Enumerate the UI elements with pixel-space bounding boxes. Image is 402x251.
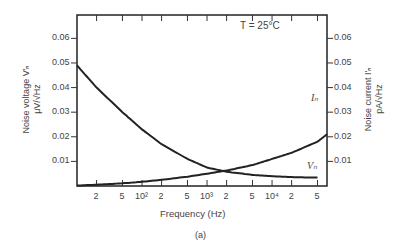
- y-axis-left-label: Noise voltage V'ₙ μV/√Hz: [21, 49, 43, 149]
- x-tick-label: 2: [94, 191, 99, 201]
- y-tick-label-left: 0.02: [52, 131, 70, 141]
- y-tick-label-left: 0.03: [52, 106, 70, 116]
- vn-curve: [77, 65, 318, 177]
- y-tick-label-right: 0.06: [334, 32, 352, 42]
- y-tick-label-right: 0.03: [334, 106, 352, 116]
- x-axis-label: Frequency (Hz): [160, 208, 225, 219]
- plot-frame: [77, 15, 327, 186]
- x-tick-label: 5: [119, 191, 124, 201]
- y-tick-label-left: 0.05: [52, 57, 70, 67]
- x-tick-label: 2: [289, 191, 294, 201]
- y-tick-label-right: 0.05: [334, 57, 352, 67]
- y-tick-label-right: 0.04: [334, 82, 352, 92]
- x-tick-label: 10³: [200, 191, 213, 201]
- figure-caption: (a): [195, 230, 206, 240]
- x-tick-label: 2: [159, 191, 164, 201]
- y-tick-label-right: 0.02: [334, 131, 352, 141]
- vn-series-label: Vₙ: [307, 160, 317, 171]
- y-tick-label-left: 0.01: [52, 155, 70, 165]
- x-tick-label: 5: [314, 191, 319, 201]
- x-tick-label: 10²: [135, 191, 148, 201]
- x-tick-label: 2: [224, 191, 229, 201]
- in-series-label: Iₙ: [311, 92, 318, 103]
- x-tick-label: 5: [184, 191, 189, 201]
- temperature-annotation: T = 25°C: [240, 20, 280, 31]
- y-tick-label-left: 0.04: [52, 82, 70, 92]
- y-axis-right-label: Noise current I'ₙ pA/√Hz: [363, 49, 385, 149]
- y-tick-label-left: 0.06: [52, 32, 70, 42]
- x-tick-label: 10⁴: [265, 191, 279, 201]
- y-tick-label-right: 0.01: [334, 155, 352, 165]
- x-tick-label: 5: [249, 191, 254, 201]
